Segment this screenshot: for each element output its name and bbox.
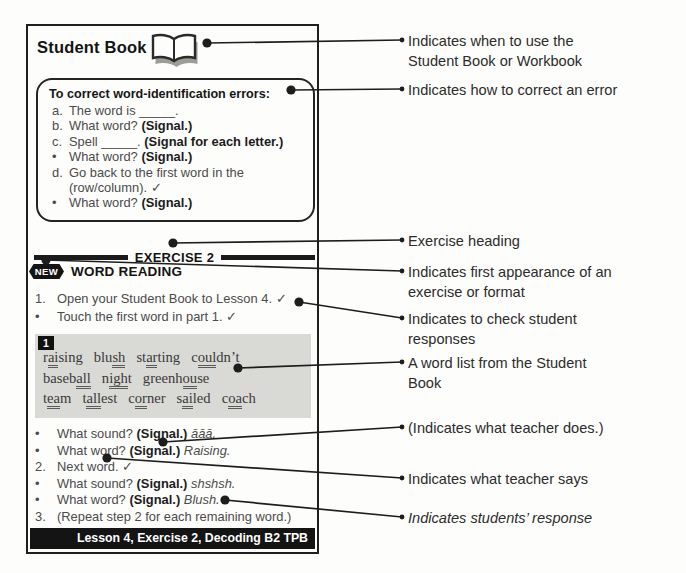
word-part: m: [60, 390, 71, 406]
open-book-icon: [147, 30, 203, 70]
line-marker: •: [33, 308, 57, 326]
correction-line: a. The word is _____.: [52, 103, 307, 118]
word-part-underlined: igh: [109, 370, 128, 389]
line-marker: 3.: [33, 509, 57, 526]
student-response: Blush.: [184, 492, 220, 507]
student-response: āāā.: [191, 426, 216, 441]
word-part: sing: [58, 349, 82, 365]
word-part: ch: [242, 390, 256, 406]
teacher-does: (Signal.): [141, 149, 192, 164]
annotation-label: A word list from the Student Book: [408, 353, 618, 393]
step-line: • Touch the first word in part 1. ✓: [33, 308, 321, 326]
leader-dot: [400, 238, 405, 243]
line-marker: a.: [52, 103, 69, 118]
teacher-says: What sound?: [57, 426, 133, 441]
exercise-title: WORD READING: [71, 264, 182, 279]
word: greenhouse: [143, 370, 209, 386]
exercise-title-row: NEW WORD READING: [29, 264, 182, 279]
line-marker: •: [33, 443, 57, 460]
word-part-underlined: all: [76, 370, 91, 389]
annotation-label: Indicates first appearance of an exercis…: [408, 262, 643, 302]
teacher-does: (Signal for each letter.): [144, 134, 283, 149]
dialogue-line: • What word? (Signal.) Raising.: [33, 443, 321, 460]
word-rows: raisingblushstartingcouldn’t baseballnig…: [43, 347, 267, 409]
correction-line: • What word? (Signal.): [52, 149, 307, 164]
teacher-says: (Repeat step 2 for each remaining word.): [57, 509, 291, 524]
word-row: baseballnightgreenhouse: [43, 368, 267, 389]
line-marker: c.: [52, 134, 69, 149]
teacher-guide-sample-card: Student Book To correct word-identificat…: [26, 24, 319, 554]
word-row: teamtallestcornersailedcoach: [43, 388, 267, 409]
teacher-does: (Signal.): [129, 443, 180, 458]
leader-dot: [400, 316, 405, 321]
line-marker: d.: [52, 165, 69, 196]
annotation-label: Exercise heading: [408, 231, 678, 251]
word-part-underlined: ea: [47, 390, 60, 409]
annotation-label: (Indicates what teacher does.): [408, 418, 678, 438]
word-part-underlined: oa: [228, 390, 242, 409]
teacher-says: What word?: [69, 195, 138, 210]
word-part: dn’t: [216, 349, 239, 365]
correction-line: d. Go back to the first word in the (row…: [52, 165, 307, 196]
teacher-says: What word?: [57, 492, 126, 507]
word-part: t: [128, 370, 132, 386]
card-title: Student Book: [37, 38, 147, 57]
leader-dot: [400, 476, 405, 481]
exercise-heading: EXERCISE 2: [34, 250, 315, 265]
teacher-does: (Signal.): [141, 118, 192, 133]
line-marker: •: [33, 426, 57, 443]
word-part: c: [191, 349, 197, 365]
dialogue-lines: • What sound? (Signal.) āāā. • What word…: [33, 426, 321, 526]
word-part-underlined: sh: [112, 349, 125, 368]
line-marker: •: [52, 149, 69, 164]
annotation-label: Indicates students’ response: [408, 508, 678, 528]
word-part: greenh: [143, 370, 183, 386]
teacher-does: (Signal.): [141, 195, 192, 210]
correction-box: To correct word-identification errors: a…: [36, 78, 315, 222]
line-marker: 1.: [33, 290, 57, 308]
word: night: [102, 370, 132, 386]
teacher-says: Go back to the first word in the (row/co…: [69, 165, 244, 195]
teacher-says: Spell _____.: [69, 134, 141, 149]
lesson-reference-bar: Lesson 4, Exercise 2, Decoding B2 TPB: [30, 528, 315, 549]
teacher-says: Open your Student Book to Lesson 4. ✓: [57, 291, 287, 306]
line-marker: •: [33, 476, 57, 493]
exercise-heading-label: EXERCISE 2: [135, 250, 215, 265]
annotation-label: Indicates how to correct an error: [408, 80, 678, 100]
word: blush: [94, 349, 126, 365]
leader-dot: [400, 515, 405, 520]
word-part: ner: [147, 390, 166, 406]
teacher-says: What sound?: [57, 476, 133, 491]
word: starting: [136, 349, 180, 365]
word: sailed: [177, 390, 211, 406]
word-part-underlined: ai: [48, 349, 59, 368]
teacher-says: The word is _____.: [69, 103, 179, 118]
dialogue-line: • What sound? (Signal.) shshsh.: [33, 476, 321, 493]
word-part: led: [193, 390, 211, 406]
word-part: c: [128, 390, 134, 406]
teacher-does: (Signal.): [129, 492, 180, 507]
dialogue-line: 3. (Repeat step 2 for each remaining wor…: [33, 509, 321, 526]
correction-line: c. Spell _____. (Signal for each letter.…: [52, 134, 307, 149]
word: baseball: [43, 370, 91, 386]
dialogue-line: 2. Next word. ✓: [33, 459, 321, 476]
word-part: se: [197, 370, 209, 386]
annotation-label: Indicates what teacher says: [408, 469, 678, 489]
word: corner: [128, 390, 165, 406]
word-part-underlined: ar: [146, 349, 157, 368]
page: Student Book To correct word-identificat…: [0, 0, 686, 573]
leader-dot: [400, 425, 405, 430]
annotation-label: Indicates to check student responses: [408, 309, 608, 349]
new-badge: NEW: [29, 264, 64, 279]
word-part-underlined: ou: [183, 370, 198, 389]
teacher-says: Next word. ✓: [57, 459, 133, 474]
word-list-box: 1 raisingblushstartingcouldn’t baseballn…: [35, 334, 311, 418]
word: raising: [43, 349, 83, 365]
dialogue-line: • What sound? (Signal.) āāā.: [33, 426, 321, 443]
word: couldn’t: [191, 349, 239, 365]
word-part: ting: [157, 349, 180, 365]
teacher-does: (Signal.): [137, 426, 188, 441]
word-part-underlined: oul: [198, 349, 217, 368]
word: tallest: [82, 390, 117, 406]
word: team: [43, 390, 71, 406]
